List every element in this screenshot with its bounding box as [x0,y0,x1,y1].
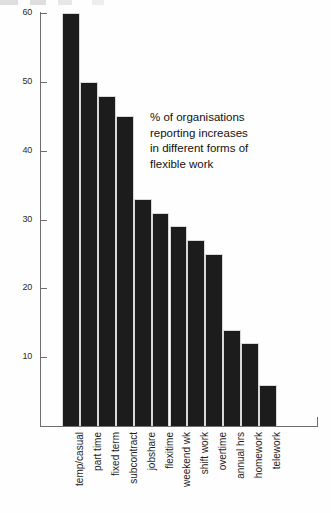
chart-annotation: % of organisations reporting increases i… [150,110,290,172]
y-tick-mark [40,151,47,152]
y-tick-label: 50 [10,77,32,86]
bar [241,343,259,426]
bar [223,330,241,426]
x-axis-label: flexitime [165,432,175,469]
annotation-line-1: % of organisations [150,110,290,126]
x-axis-label: annual hrs [236,432,246,479]
y-tick-label: 20 [10,283,32,292]
y-tick-mark [40,357,47,358]
x-axis-label: subcontract [129,432,139,484]
scan-artifact [0,0,331,5]
bar [80,82,98,426]
x-axis-label: temp/casual [75,432,85,486]
y-tick-label: 10 [10,352,32,361]
x-axis-end-tick [317,417,318,426]
x-axis-label: weekend wk [182,432,192,487]
bar [187,240,205,426]
bar [170,226,188,426]
x-axis-label: shift work [200,432,210,474]
x-axis-label: telework [272,432,282,469]
y-tick-mark [40,13,47,14]
annotation-line-3: in different forms of [150,141,290,157]
bar-chart: 102030405060 temp/casualpart timefixed t… [0,0,331,513]
x-axis-label: homework [254,432,264,478]
y-tick-mark [40,220,47,221]
x-axis-line [40,426,318,427]
bar [62,13,80,426]
y-tick-mark [40,288,47,289]
bar [116,116,134,426]
y-tick-mark [40,82,47,83]
annotation-line-2: reporting increases [150,126,290,142]
bar [259,385,277,426]
annotation-line-4: flexible work [150,157,290,173]
bar [152,213,170,426]
y-tick-label: 60 [10,8,32,17]
y-tick-label: 40 [10,146,32,155]
bar [98,96,116,426]
y-tick-label: 30 [10,215,32,224]
x-axis-label: part time [93,432,103,471]
x-axis-label: jobshare [147,432,157,470]
bar [134,199,152,426]
x-axis-label: overtime [218,432,228,470]
bar [205,254,223,426]
x-axis-label: fixed term [111,432,121,476]
